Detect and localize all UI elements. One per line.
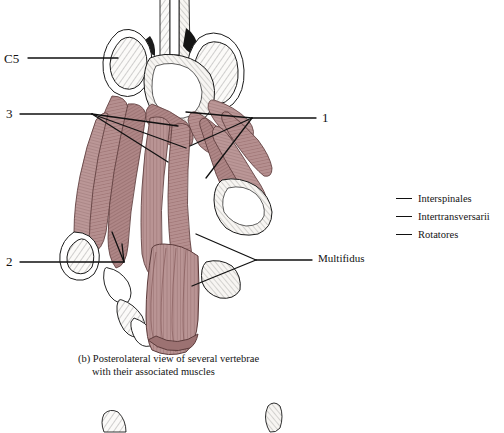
legend-item-intertransversarii: Intertransversarii [396,208,504,224]
label-c5: C5 [4,52,19,65]
legend-dash-icon [396,198,412,199]
c6-vertebra [187,33,244,111]
c5-vertebra [103,29,152,96]
leader-mf-a [196,234,256,260]
mid-right-vertebra [214,179,272,235]
caption-line-1: (b) Posterolateral view of several verte… [78,353,259,364]
leader-1a [186,112,252,118]
leader-lines [20,58,316,286]
lower-left-vertebra [60,232,100,280]
spinous-processes-top [160,0,190,66]
label-2: 2 [6,255,13,268]
rotatores-muscles [146,100,254,155]
legend: Interspinales Intertransversarii Rotator… [396,190,504,244]
label-3: 3 [6,107,13,120]
leader-mf-b [192,260,256,286]
label-multifidus: Multifidus [318,253,364,264]
caption-line-2: with their associated muscles [78,365,328,378]
legend-label: Rotatores [418,229,458,240]
leader-3c [92,114,168,162]
leader-3a [92,114,178,126]
figure-panel: C5 3 2 1 Multifidus Interspinales Intert… [0,0,504,433]
center-muscle-straps [141,117,192,278]
leader-2a [112,232,124,262]
right-muscle-bundle [200,112,272,222]
legend-item-interspinales: Interspinales [396,190,504,206]
leader-1b [190,118,252,146]
legend-label: Interspinales [418,193,472,204]
legend-item-rotatores: Rotatores [396,226,504,242]
label-1: 1 [322,111,329,124]
lower-right-vertebra [202,261,241,299]
multifidus-muscle [146,244,199,355]
leader-2b [122,244,124,262]
leader-3b [92,114,186,148]
bottom-figure-fragments [102,403,282,432]
leader-1c [206,118,252,178]
central-vertebral-mass [144,54,215,126]
lower-left-processes [104,268,154,347]
legend-label: Intertransversarii [418,211,490,222]
legend-dash-icon [396,216,412,217]
legend-dash-icon [396,234,412,235]
figure-caption: (b) Posterolateral view of several verte… [78,352,328,379]
left-muscle-bundle [74,96,146,268]
